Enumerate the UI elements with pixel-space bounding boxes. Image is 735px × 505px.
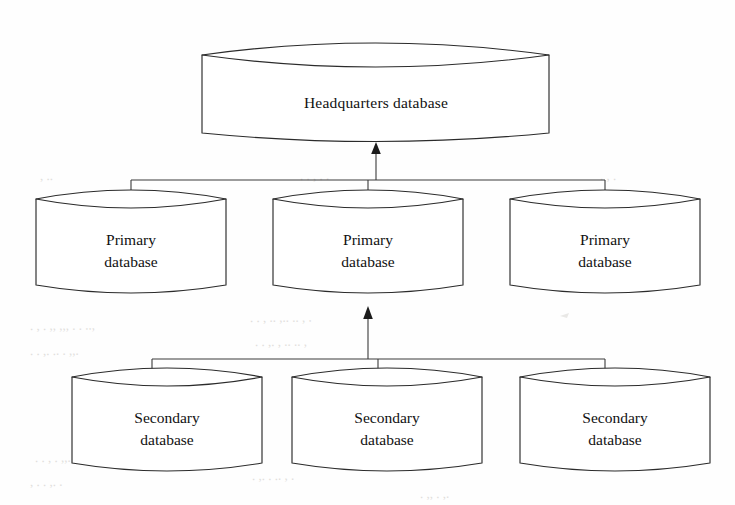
svg-text:. ,. . .. , .: . ,. . .. , . — [252, 468, 294, 483]
node-secondary-database-right[interactable]: Secondary database — [520, 368, 710, 471]
node-primary-database-center[interactable]: Primary database — [273, 190, 463, 293]
svg-text:. , . ,, ,,, . . .: . , . ,, ,,, . . .., — [30, 318, 95, 333]
primary-right-label-line1: Primary — [580, 231, 630, 248]
secondary-left-label-line2: database — [140, 431, 193, 448]
secondary-right-label-line2: database — [588, 431, 641, 448]
headquarters-cylinder-body — [202, 43, 549, 142]
node-primary-database-left[interactable]: Primary database — [36, 190, 226, 293]
node-secondary-database-center[interactable]: Secondary database — [292, 368, 482, 471]
svg-text:, . . ,. .: , . . ,. . — [30, 474, 63, 489]
secondary-left-label-line1: Secondary — [134, 409, 200, 426]
connector-primary-tier-to-headquarters — [131, 142, 605, 197]
svg-text:. , .: . , . — [600, 168, 616, 183]
secondary-right-label-line1: Secondary — [582, 409, 648, 426]
arrowhead-to-headquarters — [371, 142, 381, 154]
svg-text:. . , .. ,.. .. ,: . . , .. ,.. .. , . — [250, 310, 312, 325]
connector-secondary-tier-to-primary-center — [152, 306, 605, 375]
database-hierarchy-diagram: . , . ,, ,,, . . .., . . ,. .. . ,,. . .… — [0, 0, 735, 505]
headquarters-database-label: Headquarters database — [304, 94, 448, 111]
svg-text:. . ,. .. . ,,.: . . ,. .. . ,,. — [30, 343, 79, 358]
primary-left-label-line1: Primary — [106, 231, 156, 248]
primary-center-label-line2: database — [341, 253, 394, 270]
primary-right-label-line2: database — [578, 253, 631, 270]
arrowhead-to-primary-center — [363, 306, 373, 319]
svg-text:. . , . .: . . , . . — [300, 168, 329, 183]
svg-text:, ..: , .. — [40, 168, 53, 183]
diagram-canvas: . , . ,, ,,, . . .., . . ,. .. . ,,. . .… — [0, 0, 735, 505]
secondary-center-label-line1: Secondary — [354, 409, 420, 426]
svg-text:. ,, . ,.: . ,, . ,. — [420, 486, 449, 501]
secondary-center-label-line2: database — [360, 431, 413, 448]
primary-left-label-line2: database — [104, 253, 157, 270]
svg-text:. . ,. , .. .. ,: . . ,. , .. .. , — [255, 334, 307, 349]
node-headquarters-database[interactable]: Headquarters database — [202, 43, 549, 142]
node-primary-database-right[interactable]: Primary database — [510, 190, 700, 293]
svg-text:. . , . ,,.: . . , . ,,. — [35, 450, 71, 465]
node-secondary-database-left[interactable]: Secondary database — [72, 368, 262, 471]
primary-center-label-line1: Primary — [343, 231, 393, 248]
